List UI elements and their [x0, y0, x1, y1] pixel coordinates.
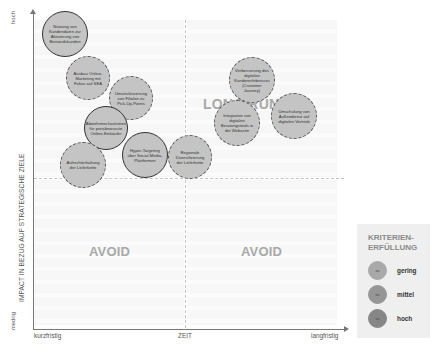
legend-title-line2: ERFÜLLUNG: [368, 243, 417, 253]
bubble-label: Umschulung von Außendienst auf digitalen…: [272, 109, 316, 124]
bubble-label: Verbesserung des digitalen Kundenerlebni…: [230, 68, 274, 93]
y-axis-arrow-icon: [30, 9, 36, 14]
bubble-item: Integration von digitalen Beratungstools…: [214, 100, 260, 146]
x-axis-arrow-icon: [344, 326, 349, 332]
x-axis-high-label: langfristig: [311, 332, 338, 339]
legend-marker-text: xx: [376, 292, 380, 297]
bubble-item: Ausbau Online-Marketing mit Fokus auf SE…: [66, 56, 110, 100]
legend-box: KRITERIEN- ERFÜLLUNG xx gering xx mittel…: [357, 224, 430, 338]
y-axis-line: [33, 13, 34, 329]
x-axis-low-label: kurzfristig: [34, 332, 61, 339]
legend-title-line1: KRITERIEN-: [368, 233, 417, 243]
y-axis-title: IMPACT IN BEZUG AUF STRATEGISCHE ZIELE: [18, 153, 25, 302]
legend-marker-text: xx: [376, 316, 380, 321]
legend-label-gering: gering: [397, 267, 417, 274]
bubble-label: Hyper-Targeting über Social-Media-Plattf…: [123, 148, 167, 163]
bubble-label: Integration von digitalen Beratungstools…: [215, 113, 259, 133]
bubble-label: Ausbau Online-Marketing mit Fokus auf SE…: [67, 71, 109, 86]
quadrant-label-avoid-left: AVOID: [89, 244, 130, 259]
bubble-label: Umstrukturierung von Filialen zu Pick-Up…: [110, 91, 152, 106]
quadrant-label-avoid-right: AVOID: [241, 244, 282, 259]
bubble-item: Regionale Diversifizierung der Lieferket…: [168, 135, 212, 179]
bubble-item: Aufrechterhaltung der Lieferkette: [60, 142, 106, 188]
legend-marker-mittel: xx: [368, 285, 387, 304]
bubble-item: Verbesserung des digitalen Kundenerlebni…: [229, 57, 275, 103]
y-axis-high-label: hoch: [10, 11, 16, 24]
bubble-label: Abwehrmechanismen für preisbewusste Onli…: [82, 121, 130, 136]
bubble-item: Umschulung von Außendienst auf digitalen…: [271, 93, 317, 139]
legend-title: KRITERIEN- ERFÜLLUNG: [368, 233, 417, 253]
x-axis-title: ZEIT: [178, 332, 192, 339]
legend-marker-gering: xx: [368, 261, 387, 280]
bubble-label: Nutzung von Kundendaten zur Aktivierung …: [43, 24, 87, 44]
bubble-label: Aufrechterhaltung der Lieferkette: [61, 160, 105, 170]
legend-label-mittel: mittel: [397, 291, 414, 298]
y-axis-low-label: niedrig: [10, 312, 16, 330]
legend-marker-text: xx: [376, 268, 380, 273]
bubble-item: Hyper-Targeting über Social-Media-Plattf…: [122, 132, 168, 178]
bubble-label: Regionale Diversifizierung der Lieferket…: [169, 150, 211, 165]
bubble-item: Nutzung von Kundendaten zur Aktivierung …: [42, 11, 88, 57]
legend-label-hoch: hoch: [397, 315, 412, 322]
x-axis-line: [33, 329, 345, 330]
legend-marker-hoch: xx: [368, 309, 387, 328]
